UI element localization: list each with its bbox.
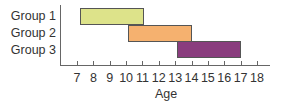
y-label-group-3: Group 3 [11,43,56,57]
x-axis-title: Age [155,87,177,101]
x-tick [175,61,176,66]
y-axis [60,5,61,65]
y-label-group-1: Group 1 [11,9,56,23]
x-tick [126,61,127,66]
x-tick [142,61,143,66]
x-tick [192,61,193,66]
y-label-group-2: Group 2 [11,26,56,40]
range-bar-group-2 [128,25,192,42]
range-bar-group-1 [80,8,144,25]
x-tick [110,61,111,66]
x-tick [77,61,78,66]
x-tick [208,61,209,66]
range-bar-group-3 [177,41,241,58]
x-tick [224,61,225,66]
x-axis [60,65,270,66]
x-tick [241,61,242,66]
x-tick [93,61,94,66]
x-tick-label: 18 [247,71,267,85]
x-tick [159,61,160,66]
x-tick [257,61,258,66]
